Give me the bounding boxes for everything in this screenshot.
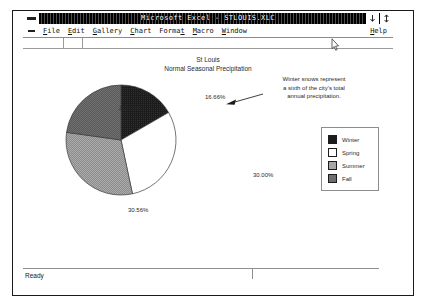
- document-control-menu-icon[interactable]: [23, 25, 39, 37]
- status-bar-text: Ready: [25, 272, 44, 279]
- status-bar-rule: [23, 268, 379, 269]
- legend-swatch-summer: [328, 161, 337, 170]
- menu-item-chart[interactable]: Chart: [126, 25, 155, 37]
- pie-label-spring: 30.00%: [253, 172, 273, 178]
- maximize-button[interactable]: [379, 13, 393, 24]
- menu-item-format[interactable]: Format: [155, 25, 188, 37]
- chart-annotation-text[interactable]: Winter snows represent a sixth of the ci…: [258, 75, 370, 101]
- minimize-button[interactable]: [365, 13, 379, 24]
- title-bar-buttons: [365, 13, 393, 24]
- menu-format-pre: Forma: [159, 27, 180, 35]
- annotation-arrow-icon: [223, 93, 265, 107]
- toolbar-divider-2: [82, 38, 83, 48]
- legend-swatch-fall: [328, 174, 337, 183]
- chart-title: St Louis Normal Seasonal Precipitation: [23, 55, 393, 73]
- document-control-menu-bar: [28, 30, 35, 32]
- chart-legend[interactable]: Winter Spring Summer Fall: [321, 127, 379, 191]
- chart-client-area: St Louis Normal Seasonal Precipitation: [23, 49, 393, 244]
- legend-item-winter[interactable]: Winter: [322, 133, 378, 146]
- chart-title-line-2: Normal Seasonal Precipitation: [23, 64, 393, 73]
- menu-gallery-rest: allery: [97, 27, 122, 35]
- window-title: Microsoft Excel - STLOUIS.XLC: [23, 13, 393, 24]
- pie-label-summer: 30.56%: [128, 207, 148, 213]
- menu-format-mnemonic: t: [180, 27, 184, 35]
- pie-slice-fall[interactable]: [67, 85, 121, 140]
- menu-item-gallery[interactable]: Gallery: [89, 25, 127, 37]
- menu-macro-rest: acro: [197, 27, 214, 35]
- menu-edit-rest: dit: [72, 27, 85, 35]
- status-bar-divider: [252, 269, 253, 279]
- menu-item-edit[interactable]: Edit: [64, 25, 89, 37]
- legend-item-fall[interactable]: Fall: [322, 172, 378, 185]
- annotation-line-3: annual precipitation.: [258, 92, 370, 101]
- menu-item-macro[interactable]: Macro: [189, 25, 218, 37]
- menu-bar: File Edit Gallery Chart Format Macro Win…: [23, 24, 393, 38]
- menu-help-rest: elp: [374, 27, 387, 35]
- pie-chart-svg: [65, 84, 177, 196]
- pie-label-fall: 22.77%: [119, 105, 139, 111]
- mouse-cursor-icon: [331, 38, 340, 51]
- menu-item-file[interactable]: File: [39, 25, 64, 37]
- legend-label-spring: Spring: [342, 149, 359, 157]
- chart-title-line-1: St Louis: [23, 55, 393, 64]
- status-bar: Ready: [23, 268, 403, 284]
- pie-slices: [66, 85, 176, 195]
- legend-label-winter: Winter: [342, 136, 359, 144]
- menu-file-rest: ile: [47, 27, 60, 35]
- legend-item-spring[interactable]: Spring: [322, 146, 378, 159]
- maximize-icon: [382, 14, 391, 23]
- menu-chart-rest: hart: [134, 27, 151, 35]
- legend-swatch-spring: [328, 148, 337, 157]
- title-bar[interactable]: Microsoft Excel - STLOUIS.XLC: [23, 13, 393, 24]
- toolbar-divider-1: [63, 38, 64, 48]
- legend-swatch-winter: [328, 135, 337, 144]
- menu-window-rest: indow: [226, 27, 247, 35]
- menu-item-help[interactable]: Help: [366, 25, 391, 37]
- annotation-line-2: a sixth of the city's total: [258, 84, 370, 93]
- pie-chart[interactable]: [65, 84, 177, 196]
- legend-label-summer: Summer: [342, 162, 365, 170]
- legend-label-fall: Fall: [342, 175, 352, 183]
- minimize-icon: [368, 14, 377, 23]
- menu-item-window[interactable]: Window: [218, 25, 251, 37]
- annotation-line-1: Winter snows represent: [258, 75, 370, 84]
- legend-item-summer[interactable]: Summer: [322, 159, 378, 172]
